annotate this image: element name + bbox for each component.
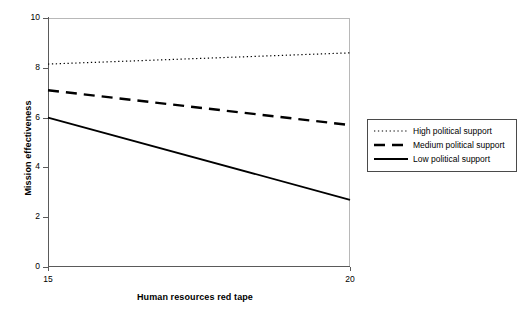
legend-label: High political support [413, 126, 492, 136]
y-tick-label: 0 [35, 261, 40, 271]
legend-item: High political support [373, 124, 511, 138]
series-lines [48, 18, 350, 267]
x-axis-title: Human resources red tape [40, 292, 350, 302]
y-tick-label: 10 [31, 12, 40, 22]
legend-line-sample-icon [373, 154, 409, 164]
y-tick-label: 6 [35, 112, 40, 122]
legend-label: Low political support [413, 154, 490, 164]
series-line [48, 53, 350, 64]
legend-line-sample-icon [373, 140, 409, 150]
plot-area: 0246810 1520 [48, 18, 350, 267]
legend-line-sample-icon [373, 126, 409, 136]
x-tick-label: 20 [345, 274, 354, 284]
x-tick: 20 [350, 266, 351, 267]
series-line [48, 118, 350, 200]
series-line [48, 90, 350, 125]
y-axis-title: Mission effectiveness [23, 68, 33, 228]
y-tick-label: 8 [35, 62, 40, 72]
legend-item: Low political support [373, 152, 511, 166]
x-tick-mark [48, 267, 49, 271]
legend-label: Medium political support [413, 140, 505, 150]
y-tick-label: 4 [35, 161, 40, 171]
legend-item: Medium political support [373, 138, 511, 152]
x-tick-mark [350, 267, 351, 271]
y-tick-label: 2 [35, 211, 40, 221]
chart-legend: High political supportMedium political s… [367, 119, 517, 172]
x-tick-label: 15 [43, 274, 52, 284]
chart-figure: Mission effectiveness Human resources re… [0, 0, 526, 318]
